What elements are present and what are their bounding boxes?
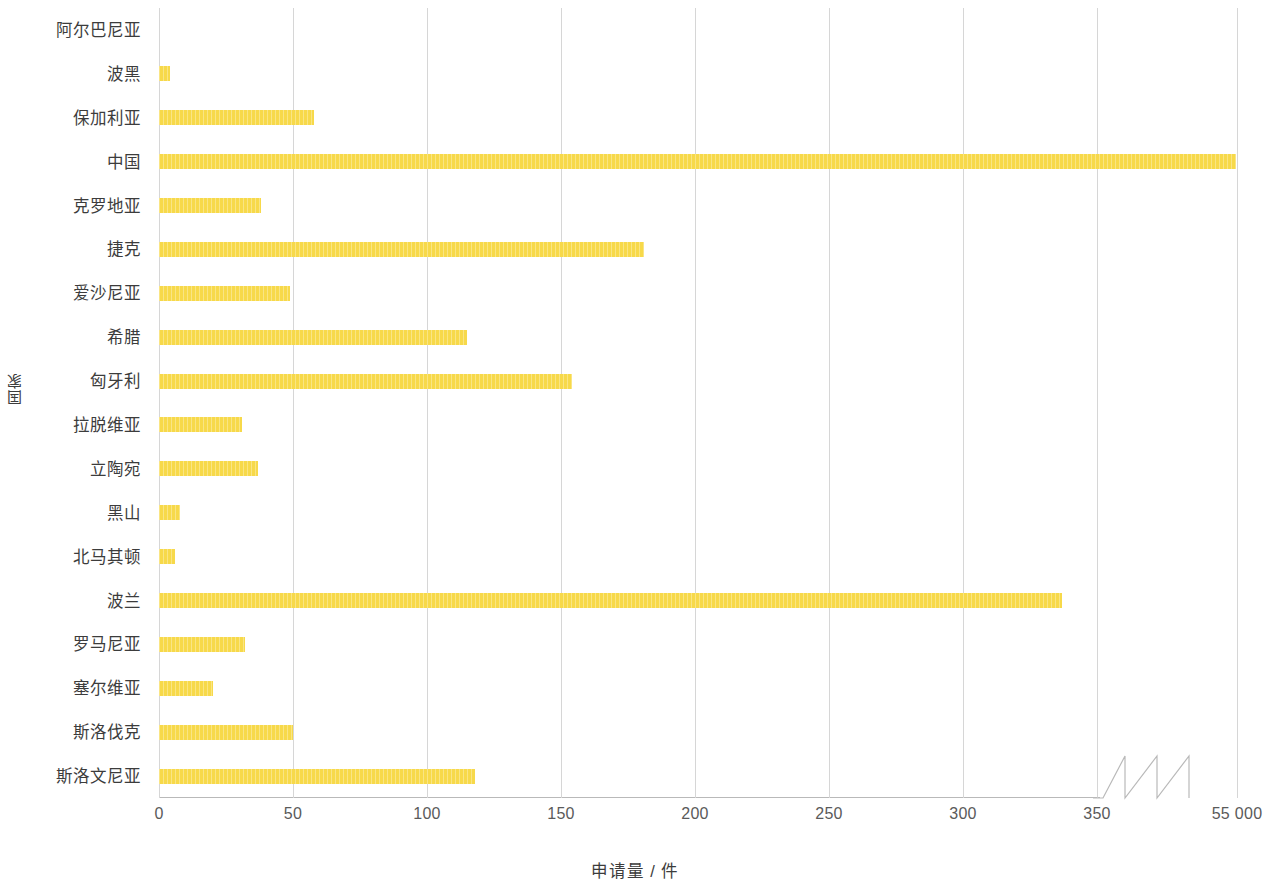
bar <box>159 242 644 257</box>
gridline <box>159 8 160 798</box>
category-label: 波黑 <box>107 66 141 83</box>
category-label: 斯洛伐克 <box>73 724 141 741</box>
bar <box>159 593 1062 608</box>
x-tick-label: 250 <box>815 805 843 823</box>
axis-break-icon <box>1093 740 1243 800</box>
bar <box>159 330 467 345</box>
gridline <box>1237 8 1238 798</box>
category-label: 阿尔巴尼亚 <box>56 22 141 39</box>
x-tick-label: 50 <box>284 805 302 823</box>
bar <box>159 461 258 476</box>
category-label: 北马其顿 <box>73 548 141 565</box>
category-label: 希腊 <box>107 329 141 346</box>
bar <box>159 725 293 740</box>
gridline <box>561 8 562 798</box>
bar-chart: 国家 05010015020025030035055 000 阿尔巴尼亚波黑保加… <box>0 0 1270 883</box>
bar <box>159 549 175 564</box>
gridline <box>829 8 830 798</box>
bar <box>159 286 290 301</box>
bar <box>159 66 170 81</box>
category-label: 立陶宛 <box>90 461 141 478</box>
x-tick-label: 0 <box>154 805 163 823</box>
gridline <box>695 8 696 798</box>
category-label: 斯洛文尼亚 <box>56 768 141 785</box>
category-label: 黑山 <box>107 504 141 521</box>
category-label: 罗马尼亚 <box>73 636 141 653</box>
bar <box>159 374 572 389</box>
x-tick-label: 100 <box>413 805 441 823</box>
bar <box>159 154 1236 169</box>
category-label: 匈牙利 <box>90 373 141 390</box>
x-axis-title: 申请量 / 件 <box>0 858 1270 882</box>
bar <box>159 198 261 213</box>
x-tick-label: 200 <box>681 805 709 823</box>
bar <box>159 505 180 520</box>
x-tick-label: 300 <box>949 805 977 823</box>
gridline <box>293 8 294 798</box>
x-tick-label: 150 <box>547 805 575 823</box>
category-label: 爱沙尼亚 <box>73 285 141 302</box>
x-tick-label: 55 000 <box>1212 805 1263 823</box>
gridline <box>1097 8 1098 798</box>
y-axis-title: 国家 <box>4 373 28 405</box>
category-label: 克罗地亚 <box>73 197 141 214</box>
gridline <box>427 8 428 798</box>
category-label: 塞尔维亚 <box>73 680 141 697</box>
bar <box>159 110 314 125</box>
category-label: 保加利亚 <box>73 109 141 126</box>
gridline <box>963 8 964 798</box>
bar <box>159 769 475 784</box>
category-label: 中国 <box>107 153 141 170</box>
bar <box>159 681 213 696</box>
x-tick-label: 350 <box>1083 805 1111 823</box>
bar <box>159 417 242 432</box>
category-label: 捷克 <box>107 241 141 258</box>
category-label: 波兰 <box>107 592 141 609</box>
category-label: 拉脱维亚 <box>73 417 141 434</box>
x-axis-line <box>159 797 1100 798</box>
bar <box>159 637 245 652</box>
